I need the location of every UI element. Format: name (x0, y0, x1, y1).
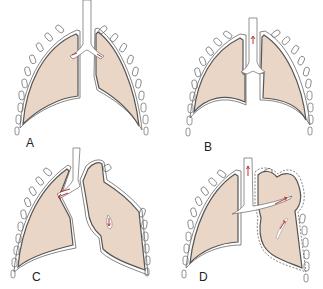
panel-label-b: B (204, 140, 212, 154)
left-lung-a (96, 32, 139, 126)
left-lung-d (258, 171, 302, 268)
panel-b: B (186, 18, 313, 154)
panel-label-a: A (26, 136, 34, 150)
panel-label-c: C (32, 270, 41, 284)
panel-d: D (182, 158, 309, 284)
lung-diagram-figure: A (0, 0, 323, 289)
lung-diagram-svg: A (0, 0, 323, 289)
left-lung-c (83, 163, 145, 270)
panel-a: A (15, 0, 148, 150)
panel-label-d: D (199, 270, 208, 284)
panel-c: C (11, 148, 150, 284)
